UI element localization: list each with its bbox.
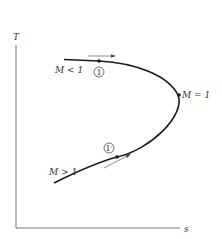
sonic-label: M = 1 bbox=[181, 90, 210, 100]
ts-diagram: T s 1 M < 1 M = 1 1′ M > 1 bbox=[0, 0, 222, 239]
subsonic-flow-arrow-icon bbox=[88, 54, 116, 57]
state-1-prime-label: 1′ bbox=[106, 144, 113, 153]
fanno-curve bbox=[54, 60, 179, 184]
y-axis-label: T bbox=[13, 32, 20, 42]
state-1-label: 1 bbox=[96, 68, 101, 77]
state-1-point bbox=[97, 59, 101, 63]
subsonic-label: M < 1 bbox=[54, 65, 83, 75]
sonic-point bbox=[177, 93, 181, 97]
x-axis-label: s bbox=[184, 224, 189, 234]
supersonic-label: M > 1 bbox=[48, 167, 77, 177]
state-1-prime-point bbox=[115, 155, 119, 159]
